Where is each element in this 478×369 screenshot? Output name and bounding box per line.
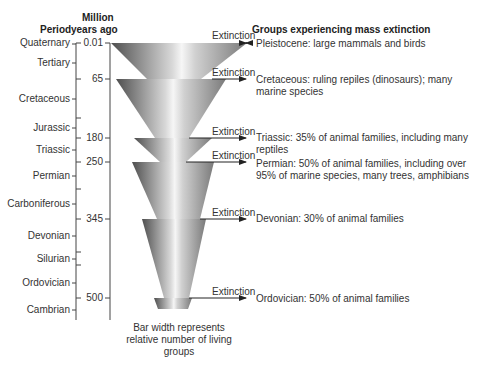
period-carboniferous: Carboniferous <box>0 198 70 209</box>
year-500: 500 <box>73 292 103 303</box>
period-permian: Permian <box>0 170 70 181</box>
extinction-label-permian: Extinction <box>212 150 255 161</box>
year-65: 65 <box>73 73 103 84</box>
period-axis <box>72 43 81 320</box>
years-header-line2: years ago <box>71 24 118 35</box>
year-345: 345 <box>73 213 103 224</box>
extinction-desc-cretaceous: Cretaceous: ruling repiles (dinosaurs); … <box>256 74 468 98</box>
living-groups-funnel <box>111 43 247 309</box>
period-triassic: Triassic <box>0 144 70 155</box>
funnel-caption: Bar width represents relative number of … <box>119 322 239 358</box>
extinction-label-triassic: Extinction <box>212 126 255 137</box>
year-0-01: 0.01 <box>73 37 103 48</box>
period-jurassic: Jurassic <box>0 122 70 133</box>
groups-header: Groups experiencing mass extinction <box>252 24 430 35</box>
year-180: 180 <box>73 132 103 143</box>
period-header: Period <box>40 24 71 35</box>
period-tertiary: Tertiary <box>0 57 70 68</box>
extinction-desc-ordovician: Ordovician: 50% of animal families <box>256 293 456 305</box>
period-quaternary: Quaternary <box>0 37 70 48</box>
extinction-label-cretaceous: Extinction <box>212 67 255 78</box>
extinction-label-pleistocene: Extinction <box>212 30 255 41</box>
extinction-desc-pleistocene: Pleistocene: large mammals and birds <box>256 38 456 50</box>
years-header-line1: Million <box>82 12 114 23</box>
extinction-desc-devonian: Devonian: 30% of animal families <box>256 213 456 225</box>
year-250: 250 <box>73 156 103 167</box>
period-devonian: Devonian <box>0 230 70 241</box>
extinction-label-devonian: Extinction <box>212 207 255 218</box>
period-ordovician: Ordovician <box>0 277 70 288</box>
extinction-label-ordovician: Extinction <box>212 286 255 297</box>
years-axis <box>105 43 110 320</box>
period-silurian: Silurian <box>0 253 70 264</box>
period-cretaceous: Cretaceous <box>0 93 70 104</box>
extinction-desc-permian: Permian: 50% of animal families, includi… <box>256 158 476 182</box>
diagram-graphics <box>0 0 478 369</box>
extinction-desc-triassic: Triassic: 35% of animal families, includ… <box>256 132 468 156</box>
period-cambrian: Cambrian <box>0 304 70 315</box>
